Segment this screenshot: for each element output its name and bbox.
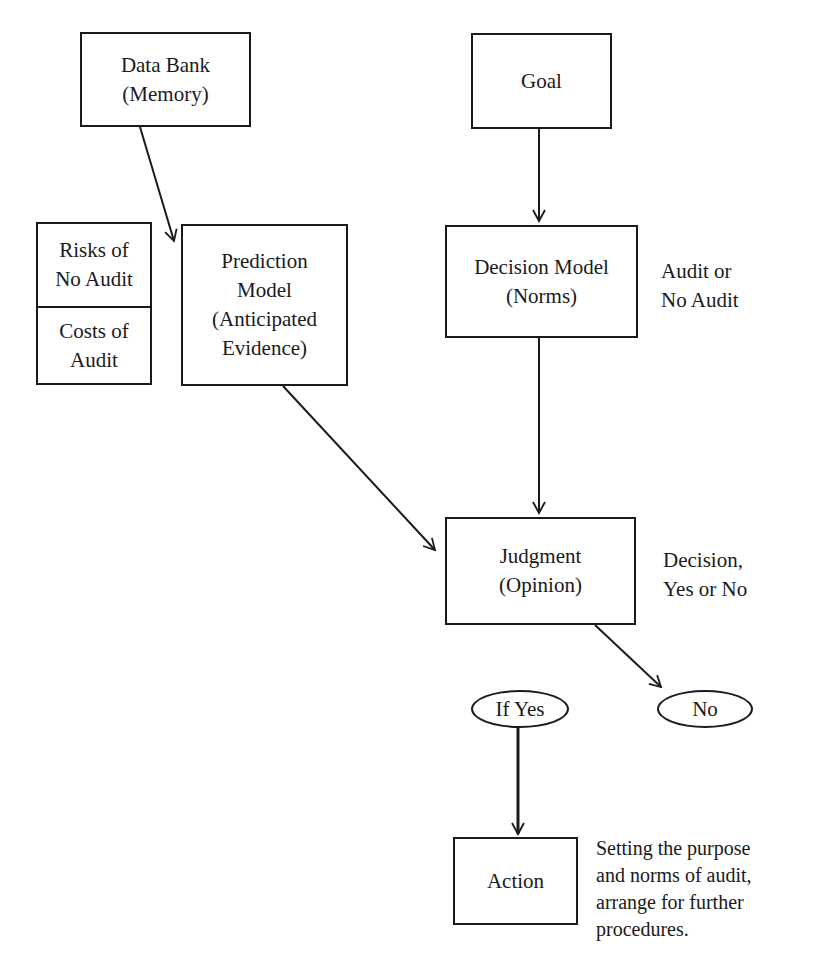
note-line: Decision, xyxy=(663,546,747,575)
arrow-judgment-to-no xyxy=(595,625,661,687)
connector-arrows xyxy=(0,0,829,980)
node-label: Evidence) xyxy=(222,334,307,363)
node-label: (Norms) xyxy=(506,282,577,311)
node-no: No xyxy=(657,690,753,728)
node-label: Goal xyxy=(521,67,562,96)
node-judgment: Judgment (Opinion) xyxy=(445,517,636,625)
node-label: Judgment xyxy=(500,542,582,571)
note-line: Yes or No xyxy=(663,575,747,604)
node-decision-model: Decision Model (Norms) xyxy=(445,225,638,338)
node-label: Prediction xyxy=(221,247,307,276)
cell-label: No Audit xyxy=(55,265,133,294)
node-label: Action xyxy=(487,867,544,896)
node-label: Decision Model xyxy=(474,253,609,282)
note-audit-or-no-audit: Audit or No Audit xyxy=(661,257,739,315)
node-label: If Yes xyxy=(495,697,544,722)
audit-decision-flowchart: Data Bank (Memory) Goal Risks of No Audi… xyxy=(0,0,829,980)
cell-label: Costs of xyxy=(59,317,128,346)
node-risks-costs: Risks of No Audit Costs of Audit xyxy=(36,222,152,385)
note-line: and norms of audit, xyxy=(596,862,752,889)
node-data-bank: Data Bank (Memory) xyxy=(80,32,251,127)
node-label: (Memory) xyxy=(122,80,208,109)
note-line: Audit or xyxy=(661,257,739,286)
node-label: (Anticipated xyxy=(212,305,317,334)
node-prediction-model: Prediction Model (Anticipated Evidence) xyxy=(181,224,348,386)
cell-costs-of-audit: Costs of Audit xyxy=(38,308,150,383)
node-action: Action xyxy=(453,837,578,925)
note-action-description: Setting the purpose and norms of audit, … xyxy=(596,835,752,943)
node-if-yes: If Yes xyxy=(471,690,569,728)
node-label: (Opinion) xyxy=(499,571,582,600)
node-label: No xyxy=(692,697,718,722)
node-label: Model xyxy=(237,276,292,305)
note-line: Setting the purpose xyxy=(596,835,752,862)
cell-label: Risks of xyxy=(59,236,128,265)
note-line: No Audit xyxy=(661,286,739,315)
arrow-prediction-to-judgment xyxy=(283,386,435,550)
node-goal: Goal xyxy=(471,33,612,129)
cell-label: Audit xyxy=(70,346,118,375)
note-decision-yes-or-no: Decision, Yes or No xyxy=(663,546,747,604)
note-line: arrange for further xyxy=(596,889,752,916)
cell-risks-no-audit: Risks of No Audit xyxy=(38,224,150,306)
note-line: procedures. xyxy=(596,916,752,943)
node-label: Data Bank xyxy=(121,51,210,80)
